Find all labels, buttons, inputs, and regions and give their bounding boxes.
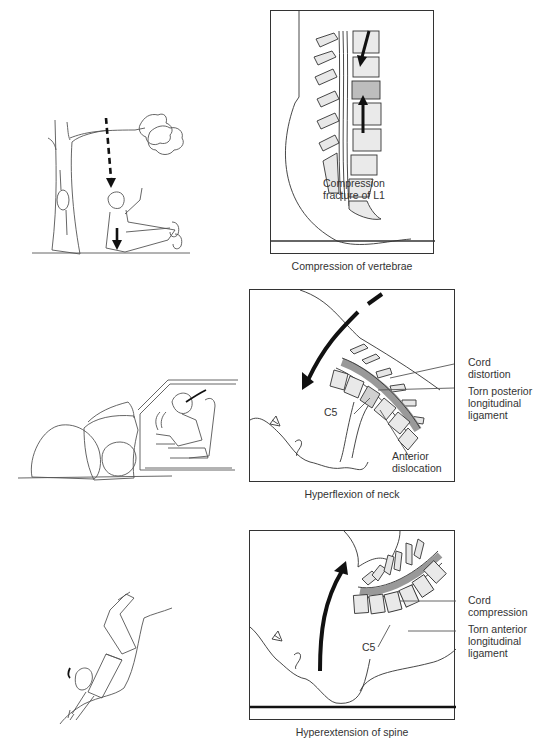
label-line: longitudinal [468,635,527,647]
label-line: compression [468,606,528,618]
compression-diagram-frame: Compression fracture of L1 [270,10,434,254]
cervical-spine-extension-illustration [250,531,456,721]
caption-hyperflexion-of-neck: Hyperflexion of neck [249,488,455,500]
label-torn-anterior-longitudinal-ligament: Torn anterior longitudinal ligament [468,623,527,659]
label-c5: C5 [324,406,337,418]
label-c5: C5 [362,641,375,653]
label-torn-posterior-longitudinal-ligament: Torn posterior longitudinal ligament [468,385,532,421]
label-line: ligament [468,409,532,421]
label-line: Cord [468,594,528,606]
caption-compression-of-vertebrae: Compression of vertebrae [270,260,434,272]
label-cord-compression: Cord compression [468,594,528,618]
label-line: ligament [468,647,527,659]
fall-from-tree-illustration [0,60,230,280]
label-line: longitudinal [468,397,532,409]
lumbar-spine-illustration [271,11,435,255]
caption-hyperextension-of-spine: Hyperextension of spine [249,726,455,738]
label-cord-distortion-outer: Cord distortion [468,356,511,380]
label-anterior-dislocation: Anterior dislocation [392,450,442,474]
label-compression-fracture-l1: Compression fracture of L1 [323,177,385,201]
label-line: fracture of L1 [323,189,385,201]
label-line: Cord [468,356,511,368]
diving-fall-illustration [0,570,230,750]
label-line: Anterior [392,450,442,462]
label-line: Compression [323,177,385,189]
car-crash-illustration [0,340,260,500]
hyperflexion-diagram-frame: C5 Anterior dislocation [249,289,455,482]
label-line: distortion [468,368,511,380]
label-line: dislocation [392,462,442,474]
hyperextension-diagram-frame: C5 [249,530,455,720]
label-line: Torn anterior [468,623,527,635]
label-line: Torn posterior [468,385,532,397]
